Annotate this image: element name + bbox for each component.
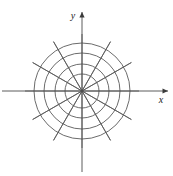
y-axis-arrow-icon	[79, 12, 84, 18]
x-axis-arrow-icon	[163, 88, 169, 93]
axes-group	[2, 12, 168, 172]
polar-grid-figure: x y	[0, 0, 173, 176]
polar-grid-canvas: x y	[0, 0, 173, 176]
y-axis-label: y	[70, 10, 76, 21]
x-axis-label: x	[158, 94, 164, 105]
